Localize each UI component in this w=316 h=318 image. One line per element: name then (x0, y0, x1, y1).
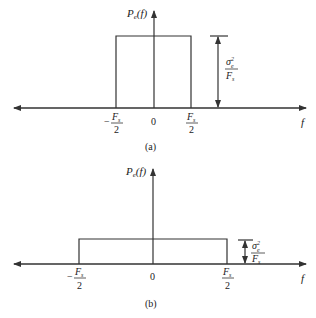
height-label-b: σ2e Fs (251, 240, 265, 265)
tick-label-neg-fs2-a: − Fs 2 (104, 111, 123, 135)
panel-b: Pe(f) σ2e Fs − Fs 2 0 Fs 2 f (b) (14, 165, 306, 310)
height-label-a: σ2e Fs (225, 56, 238, 82)
y-axis-label-a: Pe(f) (126, 7, 148, 21)
svg-text:Fs: Fs (186, 111, 196, 123)
svg-text:2: 2 (225, 280, 230, 291)
svg-text:Fs: Fs (74, 266, 84, 278)
svg-text:Fs: Fs (251, 253, 261, 265)
caption-b: (b) (145, 298, 157, 310)
tick-label-neg-fs2-b: − Fs 2 (67, 266, 86, 291)
svg-text:σ2e: σ2e (252, 240, 260, 253)
svg-text:Fs: Fs (111, 111, 121, 123)
y-axis-label-b: Pe(f) (125, 165, 147, 179)
tick-label-zero-b: 0 (150, 271, 155, 282)
tick-label-pos-fs2-b: Fs 2 (222, 266, 234, 291)
tick-label-zero-a: 0 (151, 116, 156, 127)
svg-text:Fs: Fs (222, 266, 232, 278)
figure-canvas: Pe(f) σ2e Fs − Fs 2 0 Fs 2 f (a) (0, 0, 316, 318)
x-axis-label-b: f (301, 272, 306, 284)
tick-label-pos-fs2-a: Fs 2 (186, 111, 198, 135)
svg-text:Fs: Fs (225, 70, 235, 82)
caption-a: (a) (145, 141, 156, 153)
svg-text:2: 2 (114, 124, 119, 135)
svg-text:σ2e: σ2e (226, 56, 234, 69)
x-axis-label-a: f (301, 116, 306, 128)
svg-text:2: 2 (189, 124, 194, 135)
svg-text:−: − (104, 116, 110, 127)
svg-text:2: 2 (77, 280, 82, 291)
svg-text:−: − (67, 271, 73, 282)
panel-a: Pe(f) σ2e Fs − Fs 2 0 Fs 2 f (a) (14, 7, 306, 153)
